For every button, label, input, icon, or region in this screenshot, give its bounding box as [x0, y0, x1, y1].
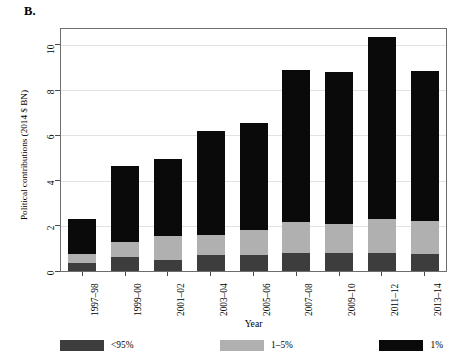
- bar-2013-14[interactable]: [411, 71, 439, 271]
- segment-1-to-5: [240, 230, 268, 255]
- bar-1997-98[interactable]: [68, 219, 96, 271]
- x-tick-label: 1999–00: [133, 272, 143, 316]
- x-tick-mark: [253, 272, 254, 276]
- segment-1-percent: [111, 166, 139, 242]
- segment-1-to-5: [368, 219, 396, 253]
- legend-swatch-icon: [379, 340, 423, 351]
- legend-label: 1–5%: [271, 340, 293, 350]
- figure-panel-b: B. Political contributions (2014 $ BN) 0…: [0, 0, 459, 360]
- y-tick-label: 10: [45, 44, 58, 64]
- bar-2005-06[interactable]: [240, 123, 268, 271]
- segment-1-to-5: [411, 221, 439, 254]
- x-tick-label: 2005–06: [262, 272, 272, 316]
- segment-under-95: [368, 253, 396, 271]
- segment-1-percent: [325, 72, 353, 224]
- segment-1-percent: [197, 131, 225, 235]
- x-tick-mark: [167, 272, 168, 276]
- legend-label: <95%: [111, 340, 133, 350]
- x-tick-mark: [296, 272, 297, 276]
- bar-2007-08[interactable]: [282, 70, 310, 271]
- segment-under-95: [240, 255, 268, 271]
- x-axis-title: Year: [60, 318, 447, 329]
- y-tick-label: 4: [45, 180, 58, 200]
- legend: <95%1–5%1%: [60, 337, 459, 353]
- y-tick-label: 2: [45, 225, 58, 245]
- legend-1-to-5[interactable]: 1–5%: [220, 340, 293, 351]
- bar-2003-04[interactable]: [197, 131, 225, 271]
- x-tick-label: 2007–08: [304, 272, 314, 316]
- segment-1-to-5: [68, 254, 96, 263]
- x-tick-label: 2011–12: [390, 272, 400, 316]
- legend-1-percent[interactable]: 1%: [379, 340, 443, 351]
- x-tick-mark: [424, 272, 425, 276]
- segment-1-percent: [282, 70, 310, 223]
- legend-swatch-icon: [220, 340, 264, 351]
- segment-1-to-5: [111, 242, 139, 258]
- segment-1-to-5: [282, 222, 310, 253]
- segment-under-95: [325, 253, 353, 271]
- x-tick-label: 2009–10: [347, 272, 357, 316]
- segment-under-95: [282, 253, 310, 271]
- bar-series-layer: [61, 29, 446, 271]
- segment-1-percent: [368, 37, 396, 219]
- segment-1-percent: [240, 123, 268, 230]
- legend-label: 1%: [430, 340, 443, 350]
- segment-1-to-5: [197, 235, 225, 255]
- segment-1-percent: [68, 219, 96, 254]
- segment-under-95: [111, 257, 139, 271]
- x-tick-mark: [210, 272, 211, 276]
- x-tick-mark: [339, 272, 340, 276]
- panel-label: B.: [24, 4, 36, 19]
- bar-2009-10[interactable]: [325, 72, 353, 271]
- segment-1-percent: [154, 159, 182, 236]
- y-tick-label: 6: [45, 135, 58, 155]
- bar-2001-02[interactable]: [154, 159, 182, 271]
- segment-1-percent: [411, 71, 439, 221]
- segment-1-to-5: [154, 236, 182, 260]
- y-tick-label: 8: [45, 90, 58, 110]
- x-tick-label: 1997–98: [90, 272, 100, 316]
- x-tick-mark: [82, 272, 83, 276]
- bar-2011-12[interactable]: [368, 37, 396, 271]
- legend-under-95[interactable]: <95%: [60, 340, 133, 351]
- y-axis-title: Political contributions (2014 $ BN): [19, 45, 29, 265]
- bar-1999-00[interactable]: [111, 166, 139, 271]
- segment-1-to-5: [325, 224, 353, 253]
- segment-under-95: [197, 255, 225, 271]
- x-tick-label: 2013–14: [433, 272, 443, 316]
- legend-swatch-icon: [60, 340, 104, 351]
- x-tick-mark: [125, 272, 126, 276]
- x-tick-mark: [381, 272, 382, 276]
- segment-under-95: [154, 260, 182, 271]
- segment-under-95: [68, 263, 96, 271]
- y-tick-label: 0: [45, 271, 58, 291]
- x-tick-label: 2001–02: [176, 272, 186, 316]
- x-tick-label: 2003–04: [219, 272, 229, 316]
- segment-under-95: [411, 254, 439, 271]
